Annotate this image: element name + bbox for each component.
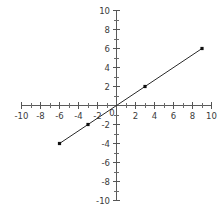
y-tick-label: -6 xyxy=(102,158,110,168)
y-tick-label: 2 xyxy=(105,82,110,92)
y-tick-label: 10 xyxy=(99,6,110,16)
data-point-marker xyxy=(200,47,203,50)
chart-canvas: -10-8-6-4-20246810108642-2-4-6-8-10 xyxy=(0,0,224,212)
x-tick-label: 10 xyxy=(206,111,217,121)
x-tick-label: 4 xyxy=(152,111,157,121)
x-tick-label: -2 xyxy=(93,111,101,121)
y-tick-label: 4 xyxy=(105,63,110,73)
data-point-marker xyxy=(143,85,146,88)
x-tick-label: -6 xyxy=(55,111,63,121)
coordinate-plane-chart: -10-8-6-4-20246810108642-2-4-6-8-10 xyxy=(0,0,224,212)
x-tick-label: 6 xyxy=(171,111,176,121)
data-point-marker xyxy=(86,123,89,126)
x-tick-label: 2 xyxy=(133,111,138,121)
y-tick-label: 8 xyxy=(105,25,110,35)
y-tick-label: -2 xyxy=(102,120,110,130)
x-tick-label: 8 xyxy=(190,111,195,121)
x-tick-label: -4 xyxy=(74,111,82,121)
y-tick-label: 6 xyxy=(105,44,110,54)
x-tick-label: -10 xyxy=(15,111,29,121)
data-point-marker xyxy=(58,142,61,145)
x-tick-label: -8 xyxy=(36,111,44,121)
y-tick-label: -10 xyxy=(96,196,110,206)
y-tick-label: -8 xyxy=(102,177,110,187)
y-tick-label: -4 xyxy=(102,139,110,149)
data-series-line xyxy=(60,49,203,144)
